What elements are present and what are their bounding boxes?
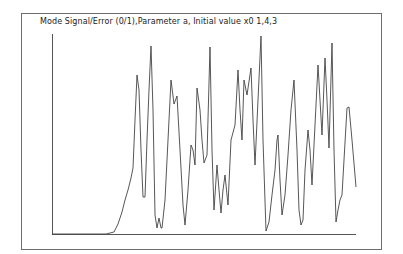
signal-line <box>52 36 356 234</box>
line-chart <box>0 0 403 254</box>
